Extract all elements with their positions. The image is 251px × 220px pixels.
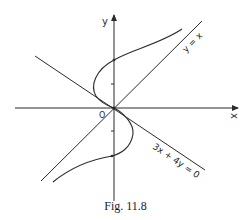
origin-point: [112, 106, 115, 109]
curve-lower-branch: [53, 108, 133, 182]
curve-y-intercept-lower: [111, 155, 114, 158]
curve-upper-branch: [94, 29, 182, 108]
figure-caption: Fig. 11.8: [0, 199, 251, 214]
curve-diagram: y x O y = x 3x + 4y = 0: [0, 0, 251, 220]
diagram-figure: y x O y = x 3x + 4y = 0 Fig. 11.8: [0, 0, 251, 220]
origin-label: O: [99, 111, 105, 120]
curve-y-intercept-upper: [113, 59, 116, 62]
label-3x-plus-4y: 3x + 4y = 0: [151, 141, 202, 180]
y-axis-label: y: [102, 16, 108, 27]
x-axis-label: x: [229, 113, 240, 119]
label-y-equals-x: y = x: [180, 30, 204, 54]
